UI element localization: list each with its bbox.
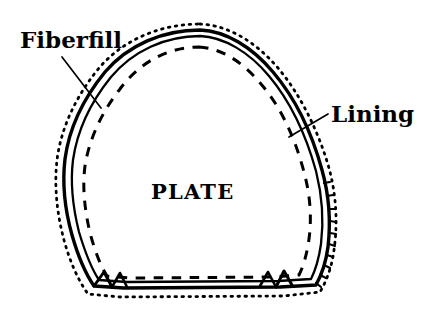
plate-cross-section-diagram: Fiberfill Lining PLATE <box>0 0 437 328</box>
lining-label: Lining <box>331 100 414 127</box>
diagram-canvas: Fiberfill Lining PLATE <box>0 0 437 328</box>
fiberfill-label: Fiberfill <box>20 26 122 53</box>
plate-label: PLATE <box>151 179 234 204</box>
